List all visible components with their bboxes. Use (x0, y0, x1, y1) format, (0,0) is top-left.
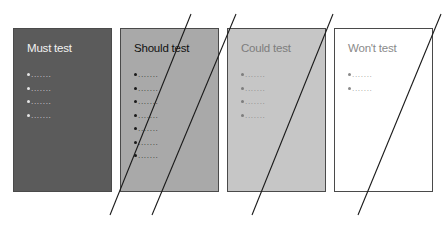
bullet-item: ······· (27, 112, 52, 126)
bullet-dot-icon (27, 114, 30, 117)
bullet-placeholder-text: ······· (245, 72, 266, 82)
bullet-list: ···························· (27, 71, 52, 125)
box-must-test: Must test ···························· (13, 28, 112, 192)
bullet-dot-icon (241, 73, 244, 76)
box-title: Won't test (348, 42, 397, 54)
bullet-placeholder-text: ······· (138, 113, 159, 123)
bullet-placeholder-text: ······· (31, 99, 52, 109)
bullet-dot-icon (134, 114, 137, 117)
bullet-item: ······· (241, 85, 266, 99)
bullet-dot-icon (241, 87, 244, 90)
bullet-dot-icon (134, 100, 137, 103)
bullet-item: ······· (348, 85, 373, 99)
bullet-dot-icon (348, 73, 351, 76)
bullet-dot-icon (134, 141, 137, 144)
bullet-item: ······· (27, 71, 52, 85)
bullet-item: ······· (27, 85, 52, 99)
bullet-dot-icon (134, 73, 137, 76)
bullet-dot-icon (134, 127, 137, 130)
bullet-placeholder-text: ······· (245, 113, 266, 123)
bullet-list: ·············· (348, 71, 373, 98)
bullet-item: ······· (348, 71, 373, 85)
bullet-item: ······· (27, 98, 52, 112)
bullet-placeholder-text: ······· (138, 99, 159, 109)
box-title: Must test (27, 42, 72, 54)
bullet-item: ······· (241, 98, 266, 112)
box-wont-test: Won't test ·············· (334, 28, 433, 192)
bullet-dot-icon (348, 87, 351, 90)
box-title: Should test (134, 42, 189, 54)
bullet-placeholder-text: ······· (352, 86, 373, 96)
bullet-placeholder-text: ······· (31, 113, 52, 123)
bullet-dot-icon (134, 87, 137, 90)
bullet-placeholder-text: ······· (138, 72, 159, 82)
bullet-placeholder-text: ······· (352, 72, 373, 82)
bullet-placeholder-text: ······· (138, 153, 159, 163)
bullet-item: ······· (134, 139, 159, 153)
bullet-item: ······· (134, 112, 159, 126)
bullet-item: ······· (241, 112, 266, 126)
box-could-test: Could test ···························· (227, 28, 326, 192)
bullet-placeholder-text: ······· (138, 140, 159, 150)
bullet-item: ······· (134, 98, 159, 112)
bullet-item: ······· (134, 71, 159, 85)
bullet-item: ······· (241, 71, 266, 85)
box-should-test: Should test ····························… (120, 28, 219, 192)
bullet-placeholder-text: ······· (245, 99, 266, 109)
bullet-item: ······· (134, 152, 159, 166)
bullet-list: ········································… (134, 71, 159, 166)
bullet-dot-icon (241, 114, 244, 117)
bullet-dot-icon (241, 100, 244, 103)
bullet-placeholder-text: ······· (245, 86, 266, 96)
bullet-dot-icon (27, 73, 30, 76)
bullet-dot-icon (27, 100, 30, 103)
bullet-placeholder-text: ······· (31, 86, 52, 96)
bullet-item: ······· (134, 85, 159, 99)
bullet-placeholder-text: ······· (31, 72, 52, 82)
box-title: Could test (241, 42, 291, 54)
bullet-dot-icon (134, 154, 137, 157)
bullet-list: ···························· (241, 71, 266, 125)
bullet-item: ······· (134, 125, 159, 139)
bullet-dot-icon (27, 87, 30, 90)
bullet-placeholder-text: ······· (138, 86, 159, 96)
bullet-placeholder-text: ······· (138, 126, 159, 136)
